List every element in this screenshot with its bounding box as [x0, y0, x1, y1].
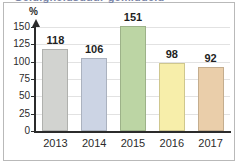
y-axis-tick — [31, 96, 35, 97]
bar-value-2013: 118 — [35, 35, 75, 46]
bar-2017 — [198, 67, 224, 131]
bar-2015 — [120, 26, 146, 131]
y-axis-unit-label: % — [29, 6, 38, 17]
y-axis-tick — [31, 44, 35, 45]
bar-value-2015: 151 — [113, 12, 153, 23]
y-axis-tick — [31, 131, 35, 132]
y-axis-label: 75 — [4, 74, 30, 84]
y-axis-label: 150 — [4, 22, 30, 32]
x-axis-label-2014: 2014 — [74, 137, 114, 149]
x-axis-label-2016: 2016 — [152, 137, 192, 149]
chart-image: Geldigheidsduur gemiddeld % 025507510012… — [0, 0, 239, 166]
y-axis-labels: 0255075100125150 — [2, 0, 30, 166]
bar-2013 — [42, 49, 68, 131]
bar-2016 — [159, 63, 185, 131]
y-axis-label: 0 — [4, 126, 30, 136]
bar-value-2016: 98 — [152, 49, 192, 60]
y-axis-tick — [31, 27, 35, 28]
y-axis-label: 25 — [4, 109, 30, 119]
x-axis-label-2013: 2013 — [35, 137, 75, 149]
x-axis-label-2017: 2017 — [191, 137, 231, 149]
y-axis-tick — [31, 79, 35, 80]
y-axis-label: 50 — [4, 91, 30, 101]
bar-value-2014: 106 — [74, 44, 114, 55]
y-axis-tick — [31, 62, 35, 63]
y-axis-label: 125 — [4, 39, 30, 49]
x-axis-label-2015: 2015 — [113, 137, 153, 149]
y-axis-label: 100 — [4, 57, 30, 67]
x-axis-line — [34, 131, 231, 133]
bar-value-2017: 92 — [191, 53, 231, 64]
bar-2014 — [81, 58, 107, 131]
y-axis-tick — [31, 114, 35, 115]
